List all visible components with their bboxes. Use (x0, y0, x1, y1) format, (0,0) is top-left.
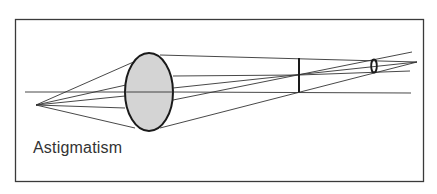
astigmatism-diagram: Astigmatism (0, 0, 437, 194)
figure-caption: Astigmatism (33, 139, 122, 157)
diagram-canvas (0, 0, 437, 194)
sagittal-focal-ellipse (371, 60, 377, 73)
incident-rays (36, 60, 138, 128)
refracted-rays (160, 52, 417, 128)
